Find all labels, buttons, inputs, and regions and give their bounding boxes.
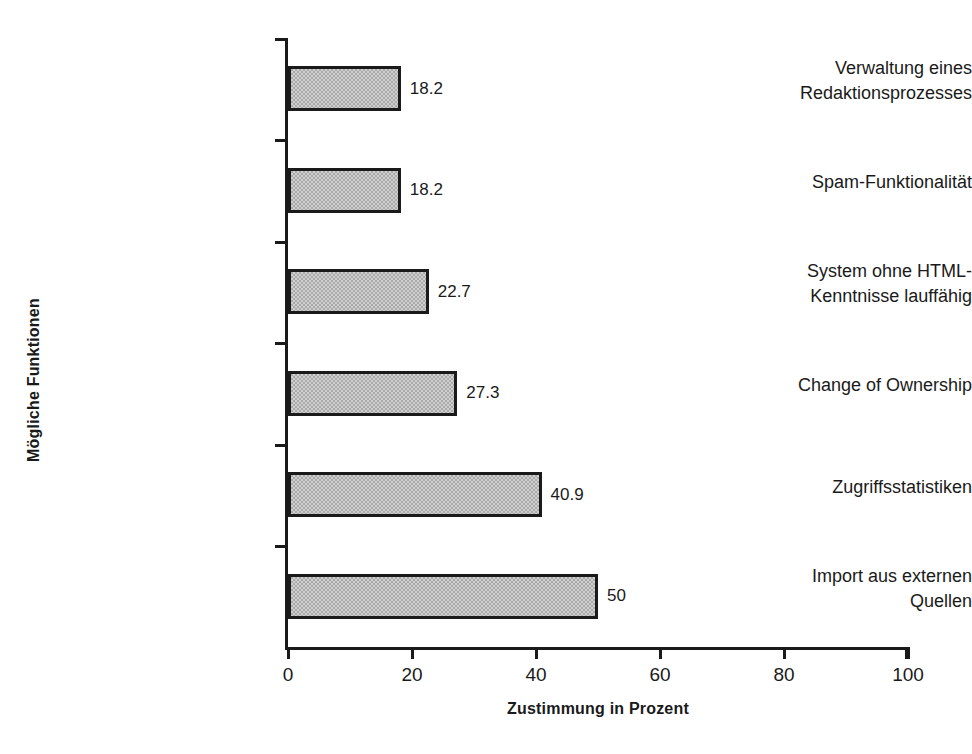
x-axis-tick-5	[907, 647, 910, 659]
bar-4[interactable]	[288, 472, 542, 517]
bar-1-rect	[288, 168, 401, 213]
bar-0[interactable]	[288, 66, 401, 111]
bar-2-rect	[288, 269, 429, 314]
x-axis-tick-label-0: 0	[248, 664, 328, 686]
bar-5-rect	[288, 574, 598, 619]
y-axis-tick-top	[275, 38, 286, 41]
bar-row-1: 18.2	[288, 140, 908, 242]
bar-0-rect	[288, 66, 401, 111]
x-axis-tick-4	[783, 647, 786, 659]
bar-row-3: 27.3	[288, 343, 908, 445]
bar-value-0: 18.2	[410, 79, 443, 99]
x-axis-line	[285, 647, 908, 650]
y-axis-tick-3	[275, 342, 286, 345]
bar-row-2: 22.7	[288, 241, 908, 343]
x-axis-tick-label-1: 20	[372, 664, 452, 686]
bar-value-3: 27.3	[466, 383, 499, 403]
x-axis-tick-label-5: 100	[868, 664, 948, 686]
bar-3[interactable]	[288, 371, 457, 416]
bar-5[interactable]	[288, 574, 598, 619]
bar-value-2: 22.7	[438, 282, 471, 302]
bar-value-5: 50	[607, 586, 626, 606]
y-axis-tick-2	[275, 241, 286, 244]
bar-value-1: 18.2	[410, 180, 443, 200]
x-axis-tick-label-2: 40	[496, 664, 576, 686]
plot-area: 18.2 18.2 22.7 27.3	[288, 38, 908, 647]
x-axis-tick-2	[535, 647, 538, 659]
x-axis-tick-label-4: 80	[744, 664, 824, 686]
x-axis-tick-3	[659, 647, 662, 659]
x-axis-tick-0	[287, 647, 290, 659]
bar-row-5: 50	[288, 546, 908, 648]
x-axis-tick-1	[411, 647, 414, 659]
bar-4-rect	[288, 472, 542, 517]
bar-chart: Mögliche Funktionen Verwaltung eines Red…	[0, 0, 972, 754]
bar-row-0: 18.2	[288, 38, 908, 140]
x-axis-tick-label-3: 60	[620, 664, 700, 686]
bar-2[interactable]	[288, 269, 429, 314]
bar-1[interactable]	[288, 168, 401, 213]
y-axis-tick-4	[275, 444, 286, 447]
y-axis-tick-1	[275, 139, 286, 142]
y-axis-tick-5	[275, 545, 286, 548]
x-axis-title: Zustimmung in Prozent	[288, 700, 908, 718]
bar-rows: 18.2 18.2 22.7 27.3	[288, 38, 908, 647]
y-axis-title: Mögliche Funktionen	[14, 160, 54, 600]
bar-3-rect	[288, 371, 457, 416]
bar-value-4: 40.9	[551, 485, 584, 505]
bar-row-4: 40.9	[288, 444, 908, 546]
